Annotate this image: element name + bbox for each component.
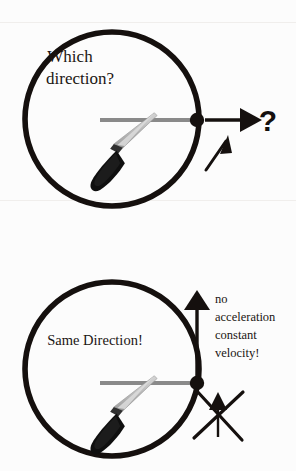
physics-diagram-svg: Which direction? ?	[0, 0, 296, 471]
note-line-2: acceleration	[215, 310, 276, 324]
up-right-arrow-icon	[206, 135, 232, 170]
top-panel: Which direction? ?	[25, 32, 277, 206]
figure-page: Which direction? ?	[0, 0, 296, 471]
note-line-3: constant	[215, 328, 257, 342]
which-direction-line1: Which	[47, 47, 93, 66]
knife-icon-top	[90, 113, 157, 191]
up-arrow-icon	[184, 290, 210, 380]
crossed-out-up-arrow-icon	[194, 390, 243, 440]
question-mark-symbol: ?	[259, 104, 277, 137]
right-arrow-icon	[205, 108, 262, 132]
which-direction-line2: direction?	[46, 69, 114, 88]
knife-icon-bottom	[90, 376, 157, 454]
note-line-1: no	[215, 292, 228, 306]
note-line-4: velocity!	[215, 346, 259, 360]
same-direction-label: Same Direction!	[47, 332, 142, 348]
top-pivot-dot	[190, 113, 204, 127]
bottom-panel: Same Direction! no acceleration constant…	[25, 282, 276, 456]
